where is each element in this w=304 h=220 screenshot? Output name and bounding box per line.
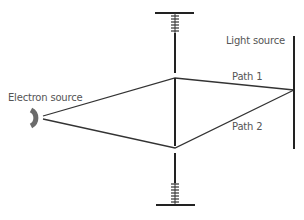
path-2-label: Path 2	[232, 122, 262, 132]
electron-source-label: Electron source	[8, 93, 82, 103]
path-1-label: Path 1	[232, 72, 262, 82]
bottom-spring-icon	[156, 153, 195, 205]
top-spring-icon	[155, 13, 194, 73]
electron-source-icon	[31, 110, 36, 126]
light-source-label: Light source	[226, 36, 285, 46]
diagram-canvas	[0, 0, 304, 220]
